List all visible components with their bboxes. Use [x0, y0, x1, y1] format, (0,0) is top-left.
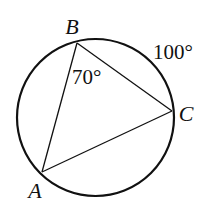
- angle-b-label: 70°: [72, 65, 101, 89]
- point-label-b: B: [65, 14, 78, 39]
- point-label-a: A: [26, 178, 42, 203]
- point-label-c: C: [179, 101, 194, 126]
- circle: [17, 39, 174, 196]
- segment-ab: [42, 43, 77, 172]
- arc-bc-label: 100°: [153, 40, 193, 64]
- segment-ca: [42, 111, 172, 172]
- geometry-diagram: A B C 70° 100°: [0, 0, 208, 203]
